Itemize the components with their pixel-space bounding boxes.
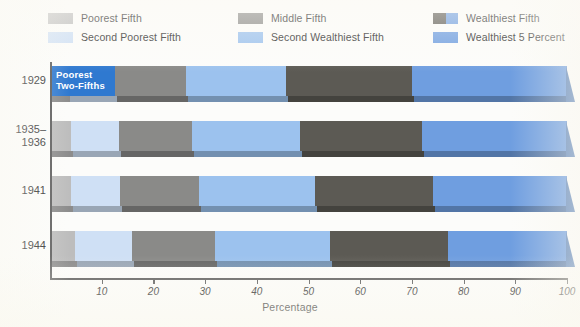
legend-swatch-half xyxy=(446,13,459,24)
bar-segment-shadow xyxy=(424,151,569,157)
legend-label: Wealthiest 5 Percent xyxy=(466,32,565,43)
bar-segment xyxy=(192,121,300,151)
x-axis-line xyxy=(50,278,568,280)
y-axis-label-line: 1936 xyxy=(2,136,46,149)
bar-segment-shadow xyxy=(117,96,188,102)
bar-segment-shadow xyxy=(414,96,569,102)
bar-end-bevel xyxy=(566,176,575,212)
legend-item-second-poorest-fifth[interactable]: Second Poorest Fifth xyxy=(48,29,181,46)
x-tick-mark xyxy=(102,279,103,284)
legend-swatch-wealthiest-5-percent xyxy=(433,32,458,43)
bar-segment xyxy=(115,66,186,96)
bar-segment-shadow xyxy=(73,206,122,212)
x-tick-mark xyxy=(205,279,206,284)
bar-segment xyxy=(186,66,286,96)
bar-segment xyxy=(50,176,71,206)
bar-segment-shadow xyxy=(134,261,218,267)
bar-segment xyxy=(71,121,119,151)
bar-segment xyxy=(199,176,314,206)
bar-1929[interactable] xyxy=(50,66,567,96)
bar-segment-shadow xyxy=(121,151,194,157)
y-axis-label-line: 1941 xyxy=(2,184,46,197)
legend-item-wealthiest-5-percent[interactable]: Wealthiest 5 Percent xyxy=(433,29,565,46)
bar-segment-shadow xyxy=(52,151,73,157)
bar-segment-shadow xyxy=(52,206,73,212)
callout-line-2: Two-Fifths xyxy=(56,81,115,92)
bar-segment xyxy=(75,231,131,261)
legend-swatch-second-poorest-fifth xyxy=(48,32,73,43)
x-tick-mark xyxy=(515,279,516,284)
bar-segment-shadow xyxy=(122,206,201,212)
legend-swatch-middle-fifth xyxy=(238,13,263,24)
bar-segment-shadow xyxy=(332,261,450,267)
bar-segment xyxy=(448,231,567,261)
bar-segment xyxy=(412,66,567,96)
bar-segment xyxy=(50,121,71,151)
x-tick-label: 80 xyxy=(458,286,469,297)
bar-end-bevel xyxy=(566,231,575,267)
legend-label: Wealthiest Fifth xyxy=(466,13,540,24)
y-axis-label-1: 1929 xyxy=(2,74,46,87)
bar-end-bevel xyxy=(566,66,575,102)
legend-row: Second Poorest FifthSecond Wealthiest Fi… xyxy=(48,29,568,46)
legend-label: Second Wealthiest Fifth xyxy=(271,32,384,43)
legend-label: Second Poorest Fifth xyxy=(81,32,181,43)
x-tick-label: 70 xyxy=(406,286,417,297)
bar-segment-shadow xyxy=(302,151,425,157)
legend-item-middle-fifth[interactable]: Middle Fifth xyxy=(238,10,326,27)
x-tick-label: 40 xyxy=(251,286,262,297)
y-axis-line xyxy=(50,62,52,279)
bar-segment-shadow xyxy=(77,261,133,267)
x-tick-mark xyxy=(464,279,465,284)
legend-item-second-wealthiest-fifth[interactable]: Second Wealthiest Fifth xyxy=(238,29,384,46)
legend-item-wealthiest-fifth[interactable]: Wealthiest Fifth xyxy=(433,10,540,27)
legend-swatch-second-wealthiest-fifth xyxy=(238,32,263,43)
chart-page: Poorest FifthMiddle FifthWealthiest Fift… xyxy=(0,0,580,327)
bar-segment-shadow xyxy=(217,261,332,267)
legend-item-poorest-fifth[interactable]: Poorest Fifth xyxy=(48,10,142,27)
bar-segment-shadow xyxy=(288,96,414,102)
bar-segment-shadow xyxy=(52,261,77,267)
x-tick-label: 90 xyxy=(510,286,521,297)
poorest-two-fifths-callout: PoorestTwo-Fifths xyxy=(50,66,115,96)
legend-swatch-wealthiest-fifth xyxy=(433,13,458,24)
bar-segment-shadow xyxy=(70,96,117,102)
bar-segment xyxy=(330,231,448,261)
bar-segment xyxy=(433,176,567,206)
bar-1944[interactable] xyxy=(50,231,567,261)
bar-segment xyxy=(119,121,192,151)
x-tick-label: 60 xyxy=(355,286,366,297)
y-axis-label-2: 1935–1936 xyxy=(2,123,46,148)
callout-line-1: Poorest xyxy=(56,70,115,81)
bar-1935-1936[interactable] xyxy=(50,121,567,151)
bar-segment xyxy=(50,231,75,261)
legend-swatch-half xyxy=(433,13,446,24)
bar-segment-shadow xyxy=(435,206,569,212)
y-axis-label-line: 1944 xyxy=(2,239,46,252)
bar-segment xyxy=(132,231,216,261)
x-tick-label: 50 xyxy=(303,286,314,297)
y-axis-label-3: 1941 xyxy=(2,184,46,197)
bar-segment-shadow xyxy=(450,261,569,267)
legend-label: Poorest Fifth xyxy=(81,13,142,24)
x-tick-label: 20 xyxy=(148,286,159,297)
bar-segment-shadow xyxy=(201,206,316,212)
x-tick-label: 30 xyxy=(200,286,211,297)
bar-end-bevel xyxy=(566,121,575,157)
bar-segment-shadow xyxy=(73,151,121,157)
y-axis-label-4: 1944 xyxy=(2,239,46,252)
bar-segment xyxy=(215,231,330,261)
bar-segment-shadow xyxy=(194,151,302,157)
legend-label: Middle Fifth xyxy=(271,13,326,24)
x-tick-mark xyxy=(412,279,413,284)
chart-legend: Poorest FifthMiddle FifthWealthiest Fift… xyxy=(48,10,568,50)
y-axis-labels: 19291935–193619411944 xyxy=(0,62,46,279)
x-tick-mark xyxy=(309,279,310,284)
bar-segment-shadow xyxy=(317,206,435,212)
bar-1941[interactable] xyxy=(50,176,567,206)
bar-segment-shadow xyxy=(52,96,70,102)
bar-segment xyxy=(120,176,199,206)
legend-swatch-poorest-fifth xyxy=(48,13,73,24)
legend-row: Poorest FifthMiddle FifthWealthiest Fift… xyxy=(48,10,568,27)
x-tick-mark xyxy=(567,279,568,284)
